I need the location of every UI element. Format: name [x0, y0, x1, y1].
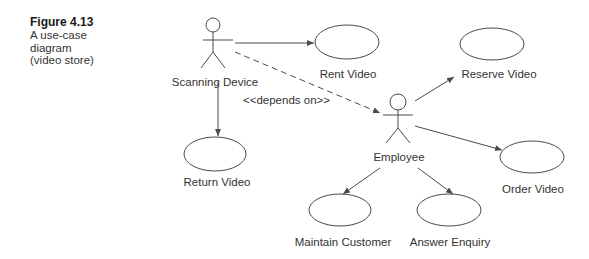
association-maintain-customer	[343, 168, 380, 194]
use-case-order-video	[500, 141, 564, 173]
use-case-rent-video	[315, 25, 379, 59]
use-case-label: Rent Video	[320, 68, 377, 80]
use-case-maintain-customer	[309, 194, 371, 226]
actor-label: Scanning Device	[172, 76, 258, 88]
actor-scanning-device	[201, 18, 233, 68]
association-answer-enquiry	[418, 168, 453, 194]
use-case-answer-enquiry	[417, 194, 481, 226]
actor-label: Employee	[373, 151, 424, 163]
use-case-label: Answer Enquiry	[410, 236, 491, 248]
association-reserve-video	[415, 77, 454, 101]
stereotype-label: <<depends on>>	[243, 94, 330, 106]
actor-head-icon	[390, 94, 406, 110]
use-case-reserve-video	[460, 28, 524, 60]
use-case-diagram: Scanning Device Employee Rent Video Rese…	[0, 0, 589, 259]
use-case-label: Reserve Video	[461, 68, 536, 80]
association-order-video	[415, 126, 502, 150]
actor-employee	[383, 94, 413, 143]
use-case-return-video	[184, 137, 246, 171]
use-case-label: Maintain Customer	[295, 236, 392, 248]
use-case-label: Order Video	[502, 183, 564, 195]
actor-head-icon	[206, 18, 220, 32]
use-case-label: Return Video	[184, 176, 251, 188]
